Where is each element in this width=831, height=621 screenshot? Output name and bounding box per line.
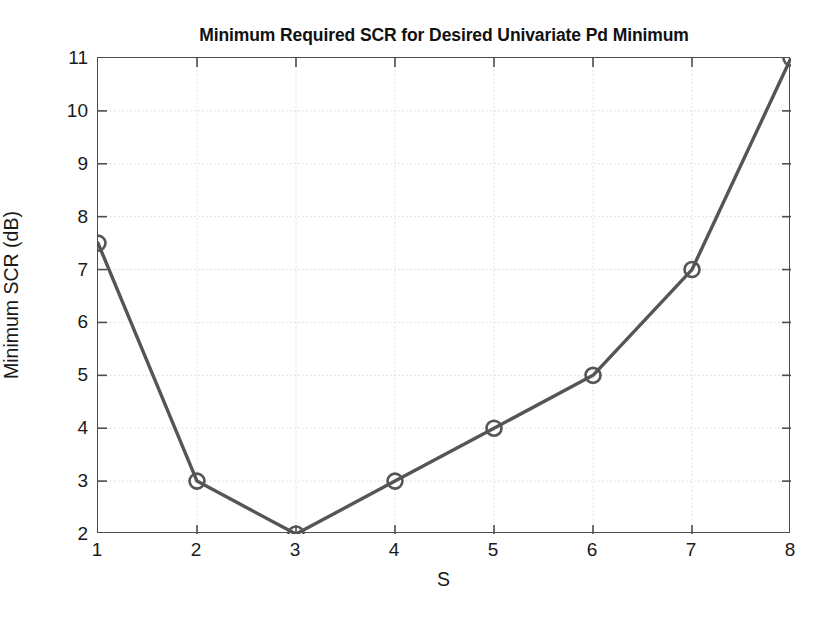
chart-title: Minimum Required SCR for Desired Univari… <box>97 25 791 46</box>
tick-marks <box>98 58 791 534</box>
x-tick-label: 3 <box>290 540 301 559</box>
y-tick-label: 3 <box>77 471 97 490</box>
y-tick-label: 8 <box>77 206 97 225</box>
y-tick-label: 6 <box>77 312 97 331</box>
x-tick-label: 2 <box>191 540 202 559</box>
y-tick-label: 4 <box>77 418 97 437</box>
x-tick-label: 7 <box>686 540 697 559</box>
x-tick-label: 4 <box>389 540 400 559</box>
y-tick-label: 9 <box>77 153 97 172</box>
y-axis-label: Minimum SCR (dB) <box>0 57 24 533</box>
x-tick-label: 1 <box>92 540 103 559</box>
chart-figure: Minimum Required SCR for Desired Univari… <box>0 0 831 621</box>
x-axis-tick-labels: 12345678 <box>97 533 790 573</box>
y-tick-label: 10 <box>67 100 97 119</box>
y-tick-label: 7 <box>77 259 97 278</box>
x-axis-label: S <box>97 568 790 591</box>
data-line-series-1 <box>98 58 791 534</box>
x-tick-label: 6 <box>587 540 598 559</box>
y-tick-label: 5 <box>77 365 97 384</box>
x-tick-label: 8 <box>785 540 796 559</box>
grid-lines <box>98 58 791 534</box>
y-tick-label: 11 <box>68 48 97 67</box>
x-tick-label: 5 <box>488 540 499 559</box>
plot-area <box>97 57 790 533</box>
data-markers <box>98 58 791 534</box>
plot-svg <box>98 58 791 534</box>
